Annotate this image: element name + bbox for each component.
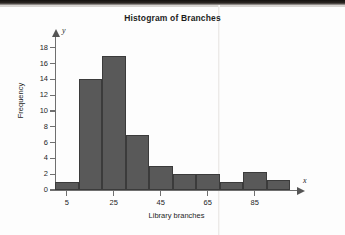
y-tick-mark (50, 79, 56, 80)
x-tick-mark (254, 191, 255, 196)
y-tick-mark (50, 174, 56, 175)
histogram-bar (149, 166, 173, 190)
y-tick-mark (50, 110, 56, 111)
y-axis-line (55, 36, 56, 191)
x-tick-label: 45 (149, 198, 173, 207)
x-tick-mark (113, 191, 114, 196)
y-tick-label: 0 (26, 185, 48, 194)
y-tick-label: 8 (26, 122, 48, 131)
x-tick-label: 65 (196, 198, 220, 207)
y-tick-label: 2 (26, 169, 48, 178)
y-tick-label: 16 (26, 59, 48, 68)
x-tick-label: 5 (55, 198, 79, 207)
histogram-bar (196, 174, 220, 190)
x-axis-arrow-icon (297, 187, 305, 195)
histogram-bar (55, 182, 79, 190)
histogram-bar (102, 56, 126, 190)
histogram-bar (126, 135, 150, 190)
x-tick-mark (66, 191, 67, 196)
y-tick-mark (50, 95, 56, 96)
x-tick-label: 85 (243, 198, 267, 207)
y-axis-title: Frequency (16, 61, 25, 141)
x-axis-line (55, 190, 298, 191)
plot-area: y x 024681012141618 525456585 Frequency … (0, 0, 345, 235)
histogram-bar (243, 172, 267, 190)
histogram-screenshot: Histogram of Branches y x 02468101214161… (0, 0, 345, 235)
y-axis-arrow-icon (52, 29, 60, 37)
y-tick-mark (50, 47, 56, 48)
y-tick-label: 4 (26, 153, 48, 162)
y-tick-mark (50, 158, 56, 159)
x-tick-label: 25 (102, 198, 126, 207)
x-tick-mark (160, 191, 161, 196)
y-tick-label: 12 (26, 90, 48, 99)
x-axis-letter: x (303, 176, 307, 185)
x-tick-mark (207, 191, 208, 196)
y-axis-letter: y (62, 26, 66, 35)
histogram-bar (267, 180, 291, 190)
histogram-bar (220, 182, 244, 190)
y-tick-label: 18 (26, 43, 48, 52)
y-tick-mark (50, 126, 56, 127)
histogram-bar (173, 174, 197, 190)
y-tick-label: 6 (26, 138, 48, 147)
x-axis-title: Library branches (55, 211, 298, 220)
y-tick-mark (50, 63, 56, 64)
y-tick-label: 14 (26, 74, 48, 83)
y-tick-mark (50, 142, 56, 143)
histogram-bar (79, 79, 103, 190)
y-tick-label: 10 (26, 106, 48, 115)
